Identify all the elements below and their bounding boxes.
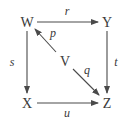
node-x: X: [22, 96, 32, 111]
node-w: W: [20, 15, 34, 30]
label-s: s: [10, 55, 15, 69]
node-z: Z: [103, 96, 112, 111]
node-v: V: [60, 54, 70, 69]
label-q: q: [84, 63, 90, 77]
label-r: r: [65, 4, 70, 18]
label-u: u: [64, 106, 70, 120]
commutative-diagram: W Y X Z V r s t u p q: [0, 0, 124, 122]
label-t: t: [114, 55, 118, 69]
node-y: Y: [102, 15, 112, 30]
label-p: p: [49, 26, 56, 40]
